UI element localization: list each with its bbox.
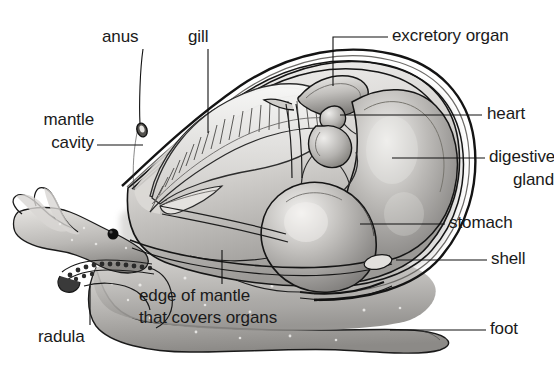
label-gill: gill <box>188 27 208 46</box>
eye-spot <box>108 229 119 240</box>
snail-anatomy-diagram: anus gill mantle cavity excretory organ … <box>0 0 554 367</box>
label-radula: radula <box>38 327 85 346</box>
label-shell: shell <box>491 249 525 268</box>
label-anus: anus <box>102 27 138 46</box>
label-digestive-gland-line1: digestive <box>489 147 554 166</box>
label-heart: heart <box>487 104 525 123</box>
label-stomach: stomach <box>449 213 513 232</box>
label-edge-of-mantle-line1: edge of mantle <box>139 286 250 305</box>
label-digestive-gland-line2: gland <box>400 170 554 189</box>
label-mantle-cavity-line1: mantle <box>0 110 94 129</box>
label-excretory-organ: excretory organ <box>392 26 509 45</box>
label-mantle-cavity-line2: cavity <box>0 133 94 152</box>
leader-anus <box>140 49 143 124</box>
anus-opening <box>135 122 149 138</box>
label-foot: foot <box>490 319 518 338</box>
label-edge-of-mantle-line2: that covers organs <box>139 308 277 327</box>
